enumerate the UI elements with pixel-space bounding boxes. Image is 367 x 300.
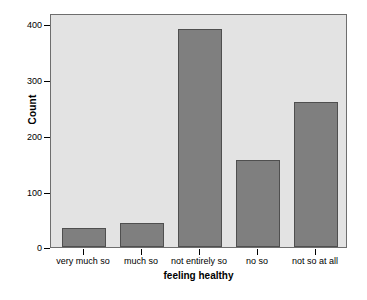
- x-tick-mark-3: [199, 249, 200, 255]
- x-tick-mark-4: [257, 249, 258, 255]
- x-tick-mark-2: [141, 249, 142, 255]
- bar-chart: Count 400 300 200 100 0 very much so muc…: [0, 0, 367, 300]
- y-tick-label-200: 200: [2, 133, 42, 142]
- y-tick-label-0: 0: [2, 244, 42, 253]
- bar-much-so: [120, 223, 164, 247]
- bar-no-so: [236, 160, 280, 247]
- x-tick-label-not-so-at-all: not so at all: [278, 256, 352, 267]
- y-tick-label-100: 100: [2, 189, 42, 198]
- bar-very-much-so: [62, 228, 106, 247]
- y-tick-label-300: 300: [2, 77, 42, 86]
- y-tick-label-400: 400: [2, 21, 42, 30]
- plot-panel: [50, 14, 347, 248]
- bar-not-entirely-so: [178, 29, 222, 247]
- y-axis-title: Count: [27, 80, 38, 140]
- y-tick-mark-0: [44, 248, 50, 249]
- x-tick-mark-1: [83, 249, 84, 255]
- bar-not-so-at-all: [294, 102, 338, 247]
- x-axis-title: feeling healthy: [50, 270, 347, 281]
- plot-area: [51, 15, 346, 247]
- x-tick-mark-5: [315, 249, 316, 255]
